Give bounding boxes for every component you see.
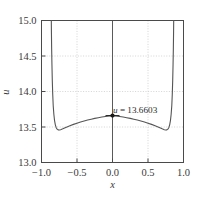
x-tick-label: 1.0 (177, 167, 190, 178)
data-point-annotation: u = 13.6603 (113, 105, 158, 115)
x-tick-label: −0.5 (67, 167, 86, 178)
x-tick-label: 0.5 (141, 167, 154, 178)
x-axis-title: x (109, 179, 115, 190)
y-tick-label: 13.0 (18, 157, 36, 168)
y-tick-label: 14.5 (18, 51, 36, 62)
y-tick-label: 15.0 (18, 15, 36, 26)
line-chart: −1.0−0.50.00.51.0 13.013.514.014.515.0 u… (0, 0, 201, 198)
y-tick-label: 13.5 (18, 122, 36, 133)
chart-background (0, 0, 201, 198)
x-tick-label: 0.0 (106, 167, 119, 178)
y-axis-title: u (0, 89, 11, 94)
y-tick-label: 14.0 (18, 86, 36, 97)
chart-figure: −1.0−0.50.00.51.0 13.013.514.014.515.0 u… (0, 0, 201, 198)
